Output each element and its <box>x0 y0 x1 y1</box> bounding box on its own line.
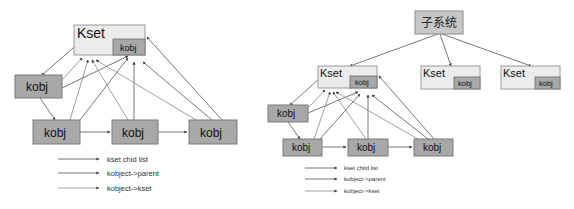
subsystem-label: 子系统 <box>421 16 457 30</box>
kset-kobject-diagrams: Kset kobj kobj kobj kobj kobj kset chid … <box>0 0 574 209</box>
right-kset-1: Kset kobj <box>318 66 377 88</box>
svg-text:kobj: kobj <box>26 80 48 94</box>
right-edges <box>288 34 531 147</box>
svg-text:kobj: kobj <box>458 79 472 88</box>
legend-kset: kobject->kset <box>344 188 380 194</box>
svg-text:kobj: kobj <box>357 142 375 153</box>
svg-text:kobj: kobj <box>122 126 144 140</box>
subsystem-box: 子系统 <box>415 11 463 34</box>
right-kset-2: Kset kobj <box>421 66 480 89</box>
legend-kset: kobject->kset <box>107 184 152 193</box>
svg-text:kobj: kobj <box>277 108 295 119</box>
left-kobj-3: kobj <box>112 120 158 144</box>
left-diagram: Kset kobj kobj kobj kobj kobj kset chid … <box>15 25 237 193</box>
legend-child-list: kset child list <box>344 165 378 171</box>
left-kobj-1: kobj <box>15 75 62 98</box>
right-diagram: 子系统 Kset kobj Kset kobj Kset kobj kobj <box>268 11 560 194</box>
right-kobj-1: kobj <box>268 105 308 122</box>
svg-text:kobj: kobj <box>292 142 310 153</box>
svg-text:kobj: kobj <box>200 126 222 140</box>
kset-label: Kset <box>77 25 105 41</box>
svg-text:kobj: kobj <box>44 126 66 140</box>
left-kset-box: Kset kobj <box>74 25 145 55</box>
right-kset-3: Kset kobj <box>501 66 560 89</box>
svg-text:Kset: Kset <box>320 67 342 79</box>
legend-child-list: kset chid list <box>107 155 149 164</box>
right-kobj-2: kobj <box>283 139 322 156</box>
svg-text:kobj: kobj <box>423 142 441 153</box>
svg-text:kobj: kobj <box>539 79 553 88</box>
legend-parent: kobject->parent <box>107 169 160 178</box>
kset-inner-kobj-label: kobj <box>120 43 137 53</box>
svg-text:kobj: kobj <box>355 78 369 87</box>
right-legend: kset child list kobject->parent kobject-… <box>305 165 386 194</box>
left-kobj-2: kobj <box>33 120 80 144</box>
left-legend: kset chid list kobject->parent kobject->… <box>58 155 160 193</box>
legend-parent: kobject->parent <box>344 176 386 182</box>
right-kobj-3: kobj <box>348 139 388 156</box>
svg-text:Kset: Kset <box>423 67 445 79</box>
right-kobj-4: kobj <box>414 139 453 156</box>
left-kobj-4: kobj <box>189 120 237 144</box>
svg-text:Kset: Kset <box>503 67 525 79</box>
